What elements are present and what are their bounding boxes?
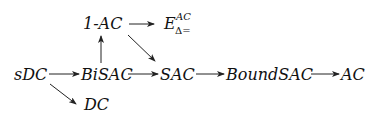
node-sdc-label: sDC [14,65,47,84]
node-1-ac-prefix: 1- [83,14,99,33]
node-1-ac-label: AC [99,14,123,33]
node-e-delta-label: E [164,14,176,33]
node-bisac-label: BiSAC [81,65,133,84]
node-ac: AC [341,67,365,83]
node-e-delta: E AC Δ= [164,16,194,40]
node-1-ac: 1-AC [83,16,122,32]
node-sdc: sDC [14,67,47,83]
node-sac-label: SAC [160,65,195,84]
node-ac-label: AC [341,65,365,84]
node-dc: DC [84,97,109,113]
node-bisac: BiSAC [81,67,133,83]
node-sac: SAC [160,67,195,83]
edge-1ac-to-sac [128,35,155,61]
node-e-delta-sub: Δ= [175,26,191,36]
node-boundsac-label: BoundSAC [226,65,313,84]
node-boundsac: BoundSAC [226,67,313,83]
edge-sdc-to-dc [50,84,76,104]
node-e-delta-sup: AC [176,12,191,22]
node-dc-label: DC [84,95,109,114]
